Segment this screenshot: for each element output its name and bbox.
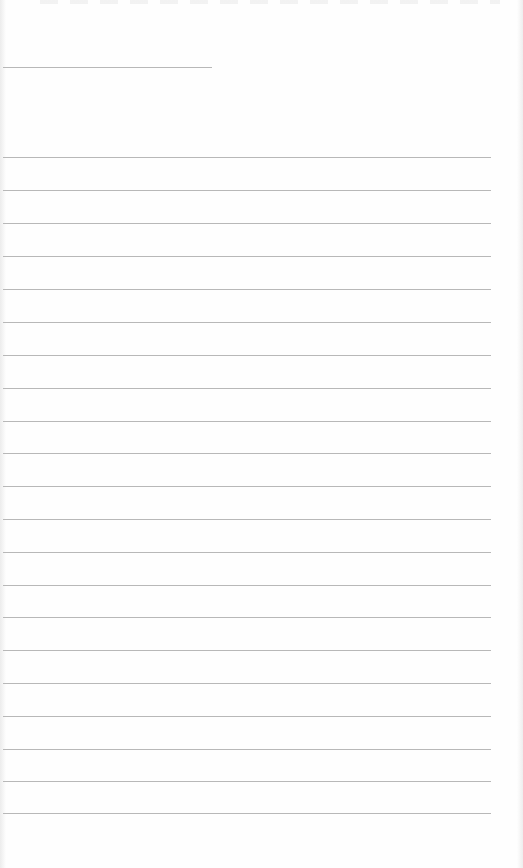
ruled-line (3, 190, 491, 191)
ruled-line (3, 256, 491, 257)
top-edge-bleed-marks (40, 0, 500, 4)
ruled-line (3, 585, 491, 586)
ruled-line (3, 486, 491, 487)
ruled-line (3, 683, 491, 684)
ruled-line (3, 289, 491, 290)
ruled-line (3, 388, 491, 389)
ruled-line (3, 749, 491, 750)
ruled-line (3, 157, 491, 158)
ruled-line (3, 355, 491, 356)
ruled-line (3, 716, 491, 717)
ruled-line (3, 322, 491, 323)
ruled-line (3, 421, 491, 422)
header-rule-line (3, 67, 212, 68)
ruled-line (3, 781, 491, 782)
ruled-line (3, 813, 491, 814)
ruled-line (3, 617, 491, 618)
lined-paper-page (0, 0, 523, 868)
ruled-line (3, 552, 491, 553)
ruled-line (3, 453, 491, 454)
ruled-line (3, 650, 491, 651)
ruled-line (3, 223, 491, 224)
ruled-line (3, 519, 491, 520)
page-right-edge-shadow (517, 0, 523, 868)
page-left-edge-shadow (0, 0, 6, 868)
